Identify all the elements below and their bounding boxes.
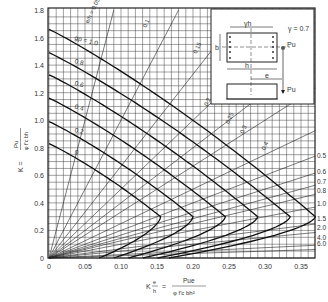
y-tick-label: 1.4 <box>34 62 44 69</box>
right-ecc-label: 0.6 <box>317 168 326 175</box>
right-ecc-label: 2.0 <box>317 224 326 231</box>
x-tick-label: 0 <box>47 263 51 270</box>
eccentricity-label: 0.4 <box>260 140 269 151</box>
right-ecc-label: 0.7 <box>317 178 326 185</box>
section-inset: γh γ = 0.7 b h e Pu Pu <box>211 9 314 104</box>
curve-label: 0.4 <box>74 103 85 112</box>
y-tick-label: 0.6 <box>34 172 44 179</box>
x-axis-label: K e h = Pue φ f'c bh² <box>146 277 206 296</box>
inset-e-label: e <box>265 72 269 79</box>
y-axis-ticks: 00.20.40.60.81.01.21.41.61.8 <box>34 7 44 262</box>
inset-yh-label: γh <box>244 20 252 28</box>
right-ecc-label: 6.0 <box>317 240 326 247</box>
svg-text:K: K <box>146 283 151 290</box>
svg-text:e: e <box>153 279 156 285</box>
inset-b-label: b <box>215 44 219 51</box>
svg-text:Pu: Pu <box>13 141 19 148</box>
right-ecc-label: 1.5 <box>317 215 326 222</box>
right-ecc-label: 0.8 <box>317 187 326 194</box>
svg-text:Pue: Pue <box>183 277 195 284</box>
eccentricity-label: 0.3 <box>239 124 248 135</box>
y-tick-label: 0.8 <box>34 145 44 152</box>
curve-label: gρ = 1.0 <box>74 34 99 48</box>
inset-pu-label-2: Pu <box>287 86 296 93</box>
y-tick-label: 0.2 <box>34 227 44 234</box>
x-tick-label: 0.10 <box>114 263 128 270</box>
y-axis-label: K = Pu φ f'c bh <box>13 128 29 172</box>
inset-pu-label: Pu <box>287 41 296 48</box>
svg-text:K =: K = <box>17 161 24 172</box>
y-tick-label: 1.2 <box>34 90 44 97</box>
inset-h-label: h <box>245 62 249 69</box>
eccentricity-label: e/h = 0.05 <box>84 0 101 24</box>
x-tick-label: 0.15 <box>150 263 164 270</box>
x-tick-label: 0.05 <box>78 263 92 270</box>
x-tick-label: 0.20 <box>186 263 200 270</box>
eccentricity-label: 0.1 <box>142 18 151 29</box>
x-tick-label: 0.30 <box>258 263 272 270</box>
right-eccentricity-labels: 0.50.60.70.81.01.52.04.06.0 <box>317 152 326 247</box>
inset-gamma-label: γ = 0.7 <box>288 25 309 33</box>
y-tick-label: 1.0 <box>34 117 44 124</box>
right-ecc-label: 0.5 <box>317 152 326 159</box>
right-ecc-label: 1.0 <box>317 200 326 207</box>
svg-text:h: h <box>153 288 156 294</box>
y-tick-label: 0 <box>40 255 44 262</box>
svg-text:φ f'c bh: φ f'c bh <box>23 132 29 150</box>
y-tick-label: 1.8 <box>34 7 44 14</box>
svg-text:=: = <box>162 283 166 290</box>
svg-text:φ f'c bh²: φ f'c bh² <box>173 290 195 296</box>
curve-label: 0.6 <box>74 79 85 88</box>
x-axis-ticks: 00.050.100.150.200.250.300.35 <box>47 263 308 270</box>
x-tick-label: 0.35 <box>294 263 308 270</box>
y-tick-label: 0.4 <box>34 200 44 207</box>
interaction-diagram: e/h = 0.050.10.150.20.250.30.4 gρ = 1.00… <box>0 0 328 302</box>
x-tick-label: 0.25 <box>222 263 236 270</box>
y-tick-label: 1.6 <box>34 35 44 42</box>
eccentricity-label: 0.15 <box>192 41 203 55</box>
